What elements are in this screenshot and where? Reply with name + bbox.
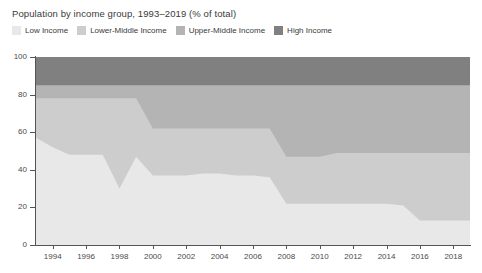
x-axis-tick — [153, 245, 154, 249]
plot-area — [36, 57, 470, 245]
legend-item-low-income[interactable]: Low Income — [12, 26, 68, 35]
x-axis-tick — [453, 245, 454, 249]
legend-swatch-low-income — [12, 26, 21, 35]
x-axis-tick — [420, 245, 421, 249]
chart-container: Population by income group, 1993–2019 (%… — [0, 0, 482, 273]
x-axis-label: 1998 — [102, 252, 136, 261]
x-axis-tick — [320, 245, 321, 249]
x-axis-tick — [353, 245, 354, 249]
y-axis-label: 60 — [2, 128, 27, 136]
stacked-area-svg — [36, 57, 470, 245]
x-axis-label: 2002 — [169, 252, 203, 261]
legend-swatch-high-income — [274, 26, 283, 35]
x-axis-label: 1994 — [36, 252, 70, 261]
x-axis-label: 2000 — [136, 252, 170, 261]
x-axis-label: 2012 — [336, 252, 370, 261]
legend-label-lower-middle-income: Lower-Middle Income — [90, 26, 166, 35]
legend-item-upper-middle-income[interactable]: Upper-Middle Income — [176, 26, 265, 35]
x-axis-tick — [53, 245, 54, 249]
legend-label-low-income: Low Income — [25, 26, 68, 35]
x-axis-label: 1996 — [69, 252, 103, 261]
x-axis-tick — [387, 245, 388, 249]
legend-swatch-lower-middle-income — [77, 26, 86, 35]
x-axis-tick — [253, 245, 254, 249]
legend-item-high-income[interactable]: High Income — [274, 26, 332, 35]
y-axis-tick — [30, 170, 35, 171]
y-axis-label: 80 — [2, 91, 27, 99]
y-axis-line — [35, 56, 36, 246]
y-axis-label: 100 — [2, 53, 27, 61]
y-axis-label: 40 — [2, 166, 27, 174]
y-axis-tick — [30, 207, 35, 208]
x-axis-label: 2016 — [403, 252, 437, 261]
x-axis-tick — [286, 245, 287, 249]
y-axis-tick — [30, 245, 35, 246]
y-axis-tick — [30, 132, 35, 133]
chart-legend: Low Income Lower-Middle Income Upper-Mid… — [12, 26, 341, 35]
x-axis-tick — [186, 245, 187, 249]
legend-label-high-income: High Income — [287, 26, 332, 35]
x-axis-label: 2010 — [303, 252, 337, 261]
x-axis-label: 2006 — [236, 252, 270, 261]
x-axis-tick — [86, 245, 87, 249]
y-axis-label: 20 — [2, 203, 27, 211]
x-axis-tick — [119, 245, 120, 249]
y-axis-label: 0 — [2, 241, 27, 249]
x-axis-label: 2004 — [203, 252, 237, 261]
legend-label-upper-middle-income: Upper-Middle Income — [189, 26, 265, 35]
y-axis-tick — [30, 95, 35, 96]
chart-title: Population by income group, 1993–2019 (%… — [12, 8, 236, 19]
x-axis-label: 2008 — [269, 252, 303, 261]
legend-item-lower-middle-income[interactable]: Lower-Middle Income — [77, 26, 166, 35]
x-axis-label: 2014 — [370, 252, 404, 261]
x-axis-label: 2018 — [436, 252, 470, 261]
x-axis-tick — [220, 245, 221, 249]
legend-swatch-upper-middle-income — [176, 26, 185, 35]
y-axis-tick — [30, 57, 35, 58]
